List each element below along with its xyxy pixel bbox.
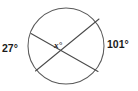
left-arc-label: 27° bbox=[2, 42, 18, 54]
right-arc-label: 101° bbox=[107, 38, 129, 50]
chord-b-line bbox=[36, 19, 100, 71]
unknown-angle-label: x° bbox=[53, 40, 63, 50]
circle-chords-diagram: 27° 101° x° bbox=[0, 0, 138, 91]
geometry-figure: 27° 101° x° bbox=[0, 0, 138, 91]
